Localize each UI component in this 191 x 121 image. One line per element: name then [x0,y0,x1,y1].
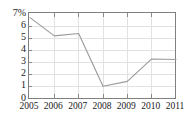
series-polyline [30,18,176,87]
y-axis-tick-label: 6 [21,20,26,30]
line-chart: 7%6543210 2005200620072008200920102011 [0,0,191,121]
x-axis-tick-label: 2009 [114,101,138,111]
x-axis-labels: 2005200620072008200920102011 [0,101,191,117]
x-axis-tick-label: 2006 [41,101,65,111]
y-axis-tick-label: 7% [13,8,26,18]
y-axis-tick-label: 2 [21,68,26,78]
y-axis-tick-label: 5 [21,32,26,42]
data-series-line [29,13,177,100]
y-axis-tick-label: 4 [21,44,26,54]
plot-area [28,12,176,99]
y-axis-tick-label: 1 [21,80,26,90]
x-axis-tick-label: 2005 [17,101,41,111]
x-axis-tick-label: 2010 [139,101,163,111]
x-axis-tick-label: 2008 [90,101,114,111]
y-axis-tick-label: 3 [21,56,26,66]
x-axis-tick-label: 2011 [163,101,187,111]
x-axis-tick-label: 2007 [66,101,90,111]
